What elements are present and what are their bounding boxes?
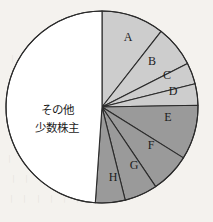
pie-slice-label-D: D: [169, 84, 178, 98]
pie-slice-label-E: E: [164, 110, 171, 124]
pie-chart: ABCDEFGH その他 少数株主: [0, 0, 213, 222]
other-shareholders-label-line2: 少数株主: [35, 121, 79, 135]
pie-slice-label-G: G: [130, 158, 139, 172]
pie-chart-screenshot: ︱ ︱ ︱ ︱ ︱︱ ︱ ︱ ︱ ︱ ︱︱ ︱ ︱ ︱ ︱︱ ︱ ︱ ︱ ︱ ︱…: [0, 0, 213, 222]
pie-slice-label-A: A: [124, 30, 133, 44]
pie-slice-group: [6, 11, 198, 203]
other-shareholders-label-line1: その他: [41, 103, 75, 117]
pie-slice-label-C: C: [163, 68, 171, 82]
pie-slice-label-H: H: [109, 170, 118, 184]
pie-slice-label-F: F: [148, 138, 155, 152]
pie-slice-label-B: B: [148, 54, 156, 68]
